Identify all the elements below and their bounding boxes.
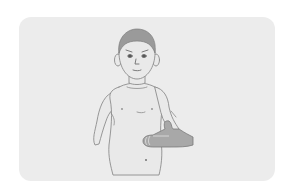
left-eye [128,55,132,58]
illustration-card: Boy holding his hand on his stomach [19,17,275,181]
child-abdomen-illustration [19,17,275,181]
torso [109,83,164,175]
right-eye [142,55,146,58]
navel [145,159,147,161]
child-figure [94,33,179,175]
left-nipple [121,108,123,110]
right-nipple [151,108,153,110]
